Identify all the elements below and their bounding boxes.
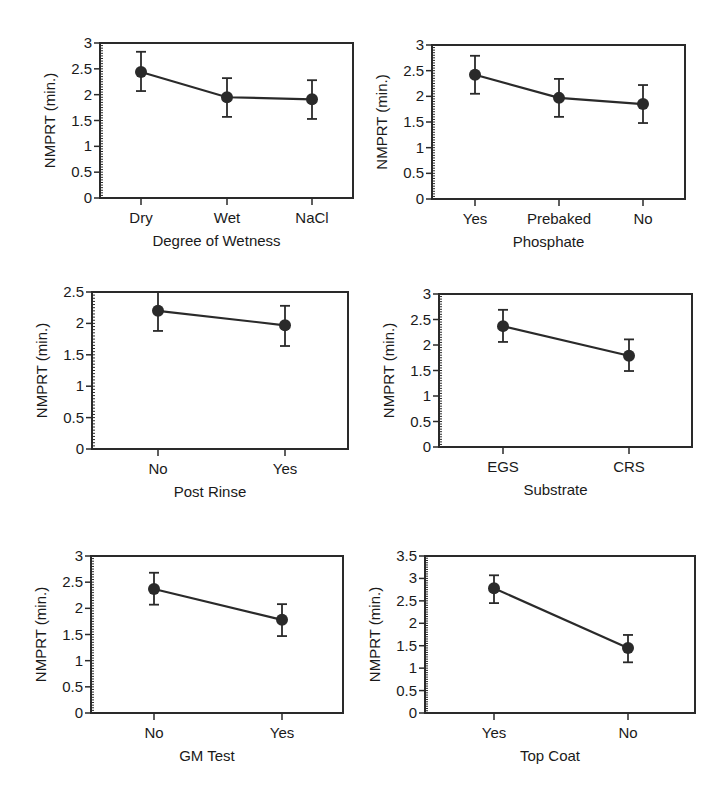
plot-frame xyxy=(432,45,685,199)
x-category-label: Prebaked xyxy=(527,210,591,227)
x-category-label: No xyxy=(618,724,637,741)
data-point-marker xyxy=(622,642,634,654)
y-tick-label: 3 xyxy=(409,569,417,586)
chart-panel-3: 00.511.522.5NoYesPost RinseNMPRT (min.) xyxy=(33,283,348,500)
data-point-marker xyxy=(469,69,481,81)
data-point-marker xyxy=(152,305,164,317)
y-tick-label: 3 xyxy=(416,36,424,53)
x-axis-title: Post Rinse xyxy=(174,483,247,500)
y-tick-label: 0 xyxy=(84,189,92,206)
data-point-marker xyxy=(221,91,233,103)
data-point-marker xyxy=(553,92,565,104)
y-axis-title: NMPRT (min.) xyxy=(41,73,58,168)
x-category-label: No xyxy=(148,460,167,477)
y-tick-label: 2 xyxy=(84,86,92,103)
y-tick-label: 0.5 xyxy=(62,678,83,695)
plot-frame xyxy=(100,43,353,198)
x-category-label: Dry xyxy=(129,209,153,226)
chart-panel-6: 00.511.522.533.5YesNoTop CoatNMPRT (min.… xyxy=(366,547,695,764)
y-tick-label: 0.5 xyxy=(396,682,417,699)
data-point-marker xyxy=(276,614,288,626)
x-category-label: Yes xyxy=(463,210,487,227)
x-category-label: Wet xyxy=(214,209,241,226)
y-tick-label: 2.5 xyxy=(403,62,424,79)
data-point-marker xyxy=(637,98,649,110)
y-axis-title: NMPRT (min.) xyxy=(373,74,390,169)
x-category-label: Yes xyxy=(273,460,297,477)
x-category-label: CRS xyxy=(613,458,645,475)
y-tick-label: 0 xyxy=(75,704,83,721)
x-axis-title: Top Coat xyxy=(520,747,581,764)
series-line xyxy=(494,588,628,648)
y-tick-label: 2 xyxy=(416,87,424,104)
plot-frame xyxy=(91,556,343,713)
series-line xyxy=(503,326,629,356)
y-tick-label: 1 xyxy=(423,387,431,404)
y-axis-title: NMPRT (min.) xyxy=(32,587,49,682)
y-axis-title: NMPRT (min.) xyxy=(33,323,50,418)
y-tick-label: 1 xyxy=(416,139,424,156)
y-tick-label: 1 xyxy=(76,377,84,394)
y-tick-label: 3 xyxy=(423,285,431,302)
y-tick-label: 2.5 xyxy=(71,60,92,77)
y-tick-label: 2.5 xyxy=(410,311,431,328)
y-tick-label: 2 xyxy=(75,599,83,616)
x-category-label: EGS xyxy=(487,458,519,475)
y-tick-label: 1 xyxy=(409,659,417,676)
y-tick-label: 0.5 xyxy=(71,163,92,180)
x-category-label: No xyxy=(144,724,163,741)
y-tick-label: 2.5 xyxy=(63,283,84,300)
y-tick-label: 0 xyxy=(409,704,417,721)
x-category-label: NaCl xyxy=(295,209,328,226)
y-tick-label: 1.5 xyxy=(396,637,417,654)
chart-panel-2: 00.511.522.53YesPrebakedNoPhosphateNMPRT… xyxy=(373,36,685,250)
chart-panel-5: 00.511.522.53NoYesGM TestNMPRT (min.) xyxy=(32,547,343,764)
y-tick-label: 1.5 xyxy=(71,112,92,129)
y-tick-label: 2.5 xyxy=(396,592,417,609)
data-point-marker xyxy=(488,582,500,594)
charts-canvas: 00.511.522.53DryWetNaClDegree of Wetness… xyxy=(0,0,724,788)
y-tick-label: 1 xyxy=(75,652,83,669)
figure-grid: 00.511.522.53DryWetNaClDegree of Wetness… xyxy=(0,0,724,788)
chart-panel-1: 00.511.522.53DryWetNaClDegree of Wetness… xyxy=(41,34,353,249)
y-tick-label: 0.5 xyxy=(403,164,424,181)
x-axis-title: Substrate xyxy=(523,481,587,498)
y-tick-label: 0 xyxy=(76,440,84,457)
y-tick-label: 0 xyxy=(416,190,424,207)
data-point-marker xyxy=(135,66,147,78)
y-tick-label: 3 xyxy=(84,34,92,51)
y-tick-label: 2 xyxy=(409,614,417,631)
plot-frame xyxy=(92,292,348,449)
y-tick-label: 1.5 xyxy=(62,626,83,643)
y-axis-title: NMPRT (min.) xyxy=(366,587,383,682)
x-axis-title: Degree of Wetness xyxy=(152,232,280,249)
y-tick-label: 0.5 xyxy=(63,409,84,426)
y-tick-label: 1.5 xyxy=(403,113,424,130)
y-tick-label: 1 xyxy=(84,137,92,154)
series-line xyxy=(158,311,285,325)
x-category-label: Yes xyxy=(482,724,506,741)
data-point-marker xyxy=(623,350,635,362)
y-tick-label: 3 xyxy=(75,547,83,564)
data-point-marker xyxy=(497,320,509,332)
y-tick-label: 3.5 xyxy=(396,547,417,564)
x-axis-title: GM Test xyxy=(179,747,235,764)
y-axis-title: NMPRT (min.) xyxy=(380,323,397,418)
y-tick-label: 2.5 xyxy=(62,573,83,590)
series-line xyxy=(154,589,282,620)
y-tick-label: 0 xyxy=(423,438,431,455)
data-point-marker xyxy=(306,93,318,105)
data-point-marker xyxy=(148,583,160,595)
y-tick-label: 1.5 xyxy=(410,362,431,379)
x-category-label: Yes xyxy=(270,724,294,741)
x-category-label: No xyxy=(633,210,652,227)
x-axis-title: Phosphate xyxy=(513,233,585,250)
plot-frame xyxy=(439,294,692,447)
chart-panel-4: 00.511.522.53EGSCRSSubstrateNMPRT (min.) xyxy=(380,285,692,498)
data-point-marker xyxy=(279,319,291,331)
y-tick-label: 1.5 xyxy=(63,346,84,363)
plot-frame xyxy=(425,556,695,713)
y-tick-label: 2 xyxy=(423,336,431,353)
y-tick-label: 0.5 xyxy=(410,413,431,430)
y-tick-label: 2 xyxy=(76,314,84,331)
